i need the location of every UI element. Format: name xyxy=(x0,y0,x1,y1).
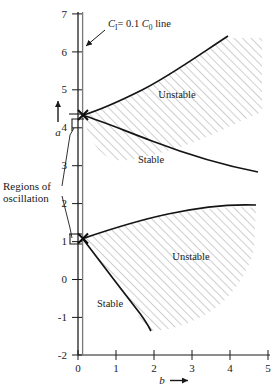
y-tick-label-neg2: -2 xyxy=(58,349,67,361)
x-tick-label-5: 5 xyxy=(265,362,271,374)
label-unstable-lower: Unstable xyxy=(172,251,210,262)
c1-annotation-text: CI= 0.1 C0 line xyxy=(108,18,171,32)
x-tick-label-0: 0 xyxy=(75,362,81,374)
y-tick-label-7: 7 xyxy=(62,8,68,20)
x-tick-label-4: 4 xyxy=(227,362,233,374)
c1-annotation: CI= 0.1 C0 line xyxy=(86,18,171,46)
x-tick-label-2: 2 xyxy=(151,362,157,374)
unstable-lower-region xyxy=(83,207,256,331)
y-tick-label-1: 1 xyxy=(62,235,68,247)
x-axis-label: b xyxy=(159,374,165,385)
oscillation-leader-lower xyxy=(62,196,72,238)
oscillation-leader-upper xyxy=(62,128,74,186)
x-tick-label-3: 3 xyxy=(189,362,195,374)
y-tick-label-0: 0 xyxy=(62,273,68,285)
c1-equals: = 0.1 xyxy=(118,18,142,29)
oscillation-annotation-line1: Regions of xyxy=(3,180,51,192)
hatched-regions xyxy=(83,38,262,331)
oscillation-annotation-line2: oscillation xyxy=(3,192,49,204)
label-stable-lower: Stable xyxy=(97,298,124,309)
x-ticks-group: 0 1 2 3 4 5 xyxy=(75,350,271,374)
y-axis-label: a xyxy=(55,126,61,138)
stability-chart: 7 6 5 4 3 2 1 0 -1 -2 0 1 2 3 4 5 xyxy=(0,0,276,385)
oscillation-annotation: Regions of oscillation xyxy=(3,114,84,244)
y-tick-label-neg1: -1 xyxy=(58,311,67,323)
label-unstable-upper: Unstable xyxy=(158,89,196,100)
label-stable-middle: Stable xyxy=(138,154,165,165)
y-tick-label-4: 4 xyxy=(62,121,68,133)
x-tick-label-1: 1 xyxy=(113,362,119,374)
y-tick-label-5: 5 xyxy=(62,83,68,95)
c1-annotation-leader xyxy=(86,30,105,46)
figure-container: 7 6 5 4 3 2 1 0 -1 -2 0 1 2 3 4 5 xyxy=(0,0,276,385)
y-tick-label-6: 6 xyxy=(62,46,68,58)
c1-tail: line xyxy=(153,18,172,29)
